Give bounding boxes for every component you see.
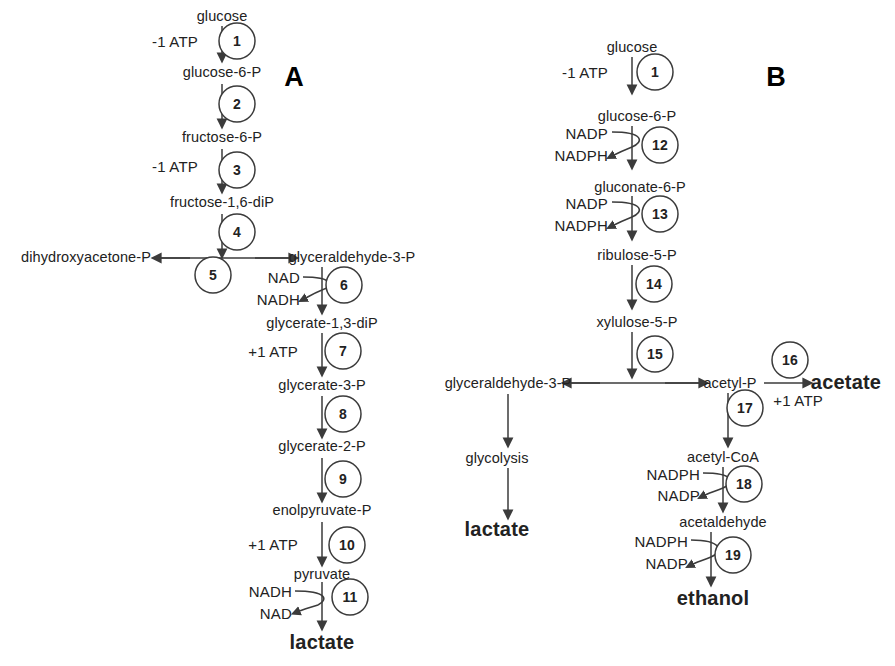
metabolite-b-ribulose-5-p: ribulose-5-P [597, 248, 676, 263]
cofactor-b-nadp-19: NADP [646, 556, 688, 571]
cofactor-b-nadp-12: NADP [566, 126, 608, 141]
pathway-arrows-layer [0, 0, 895, 666]
cofactor-curve-a-11-out [297, 605, 318, 612]
cofactor-atp-a-7: +1 ATP [248, 344, 298, 359]
cofactor-atp-a-1: -1 ATP [152, 34, 198, 49]
panel-letter-a: A [284, 62, 304, 93]
metabolite-fructose-6-p: fructose-6-P [182, 130, 262, 145]
cofactor-atp-a-3: -1 ATP [152, 159, 198, 174]
step-number-17: 17 [737, 400, 753, 416]
metabolite-glycerate-2-p: glycerate-2-P [278, 439, 366, 454]
step-number-7: 7 [339, 343, 347, 359]
step-number-5: 5 [209, 267, 217, 283]
metabolite-glyceraldehyde-3-p: glyceraldehyde-3-P [289, 250, 416, 265]
cofactor-nad-a-11: NAD [260, 606, 292, 621]
metabolite-b-acetate: acetate [811, 372, 881, 392]
step-number-19: 19 [725, 547, 741, 563]
step-number-15: 15 [647, 346, 663, 362]
step-number-12: 12 [652, 137, 668, 153]
cofactor-curve-a-6-out [304, 290, 322, 299]
step-number-14: 14 [646, 276, 662, 292]
metabolite-enolpyruvate-p: enolpyruvate-P [273, 503, 372, 518]
cofactor-b-nadp-13: NADP [566, 196, 608, 211]
metabolite-lactate: lactate [290, 632, 355, 652]
cofactor-nadh-a-6: NADH [257, 292, 300, 307]
metabolite-b-acetyl-p: acetyl-P [703, 376, 756, 391]
step-number-18: 18 [736, 476, 752, 492]
cofactor-curve-b-19-out [691, 557, 711, 565]
cofactor-curve-b-12-out [612, 147, 632, 156]
metabolite-glucose-6-p: glucose-6-P [183, 65, 261, 80]
step-number-1: 1 [233, 33, 241, 49]
step-number-8: 8 [339, 406, 347, 422]
metabolite-glycerate-3-p: glycerate-3-P [278, 378, 366, 393]
metabolite-b-glucose-6-p: glucose-6-P [598, 109, 676, 124]
step-number-4: 4 [233, 224, 241, 240]
cofactor-b-atp-16: +1 ATP [773, 393, 823, 408]
metabolite-b-glyceraldehyde-3-p: glyceraldehyde-3-P [445, 376, 572, 391]
step-number-6: 6 [340, 277, 348, 293]
cofactor-b-nadph-18: NADPH [646, 467, 700, 482]
step-number-11: 11 [342, 589, 357, 605]
cofactor-atp-a-10: +1 ATP [248, 537, 298, 552]
cofactor-b-nadph-12: NADPH [554, 148, 608, 163]
step-number-10: 10 [339, 537, 355, 553]
metabolite-b-gluconate-6-p: gluconate-6-P [594, 180, 686, 195]
step-number-9: 9 [339, 471, 347, 487]
metabolite-b-acetyl-coa: acetyl-CoA [687, 450, 759, 465]
metabolite-glucose: glucose [197, 9, 248, 24]
cofactor-b-nadph-19: NADPH [634, 534, 688, 549]
metabolite-glycerate-13-dip: glycerate-1,3-diP [266, 316, 377, 331]
cofactor-nad-a-6: NAD [268, 270, 300, 285]
cofactor-curve-b-13-in [612, 202, 639, 217]
metabolite-b-ethanol: ethanol [677, 588, 750, 608]
cofactor-nadh-a-11: NADH [249, 584, 292, 599]
metabolite-b-glucose: glucose [607, 40, 658, 55]
cofactor-curve-b-12-in [612, 132, 639, 147]
cofactor-b-nadph-13: NADPH [554, 218, 608, 233]
metabolite-b-acetaldehyde: acetaldehyde [679, 515, 766, 530]
cofactor-b-atp-1: -1 ATP [562, 65, 608, 80]
step-number-3: 3 [233, 162, 241, 178]
metabolite-b-glycolysis: glycolysis [465, 451, 528, 466]
metabolite-fructose-16-dip: fructose-1,6-diP [170, 195, 274, 210]
cofactor-curve-b-13-out [612, 217, 632, 226]
cofactor-b-nadp-18: NADP [658, 488, 700, 503]
metabolite-b-xylulose-5-p: xylulose-5-P [597, 315, 678, 330]
metabolite-b-lactate: lactate [465, 519, 530, 539]
cofactor-curve-a-11-in [295, 591, 324, 605]
step-number-2: 2 [233, 96, 241, 112]
cofactor-curve-b-18-out [703, 488, 723, 496]
metabolite-pyruvate: pyruvate [294, 567, 350, 582]
metabolite-dihydroxyacetone-p: dihydroxyacetone-P [21, 250, 151, 265]
step-number-13: 13 [652, 206, 668, 222]
step-number-16: 16 [782, 352, 798, 368]
step-number-b-1: 1 [651, 64, 659, 80]
panel-letter-b: B [766, 62, 786, 93]
figure-canvas: A B glucose glucose-6-P fructose-6-P fru… [0, 0, 895, 666]
